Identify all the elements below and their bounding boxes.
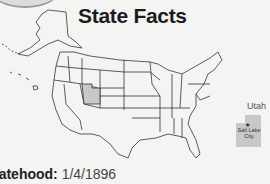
- hawaii-outline: [10, 72, 38, 90]
- capital-line-2: City: [237, 133, 261, 139]
- statehood-value: 1/4/1896: [62, 166, 117, 182]
- us-map: [0, 0, 270, 184]
- statehood-label: tatehood:: [0, 166, 58, 182]
- statehood-fact: tatehood: 1/4/1896: [0, 166, 116, 182]
- utah-inset-label: Utah: [247, 101, 266, 111]
- capital-label: Salt Lake City: [237, 127, 261, 139]
- utah-highlight: [82, 84, 100, 104]
- utah-inset-notch: [236, 115, 245, 123]
- alaska-outline: [18, 10, 82, 56]
